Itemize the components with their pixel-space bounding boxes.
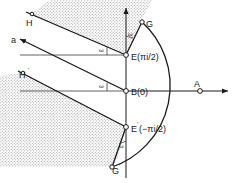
label-H-prime-mark: ' xyxy=(28,67,29,73)
label-G-prime-mark: ' xyxy=(119,163,120,169)
label-omega-3: ω xyxy=(99,82,104,90)
figure-container: H ' a H ' E(πi/2) B(0) E ' (−πi/2) G G '… xyxy=(0,0,235,183)
shade-upper-fill-2 xyxy=(31,0,152,55)
label-omega-4: ω xyxy=(119,142,124,150)
point-A xyxy=(198,89,203,94)
point-E-lower xyxy=(124,125,129,130)
label-E-upper: E(πi/2) xyxy=(131,52,159,62)
geometry-figure: H ' a H ' E(πi/2) B(0) E ' (−πi/2) G G '… xyxy=(0,0,235,183)
point-G xyxy=(140,20,144,24)
label-H-prime: H xyxy=(19,70,26,80)
label-G-prime: G xyxy=(112,166,119,176)
point-E-upper xyxy=(124,53,129,58)
label-B-origin: B(0) xyxy=(131,87,148,97)
label-G: G xyxy=(146,19,153,29)
point-H xyxy=(30,12,34,16)
label-H-mark: ' xyxy=(35,15,36,21)
label-E-lower: (−πi/2) xyxy=(139,124,166,134)
point-B-origin xyxy=(124,89,129,94)
label-omega-1: ω xyxy=(128,30,133,38)
label-omega-2: ω xyxy=(99,46,104,54)
label-a: a xyxy=(11,35,16,45)
label-A: A xyxy=(194,79,200,89)
label-E-lower-mark: ' xyxy=(137,121,138,127)
label-H: H xyxy=(26,18,33,28)
shaded-regions xyxy=(0,0,152,167)
